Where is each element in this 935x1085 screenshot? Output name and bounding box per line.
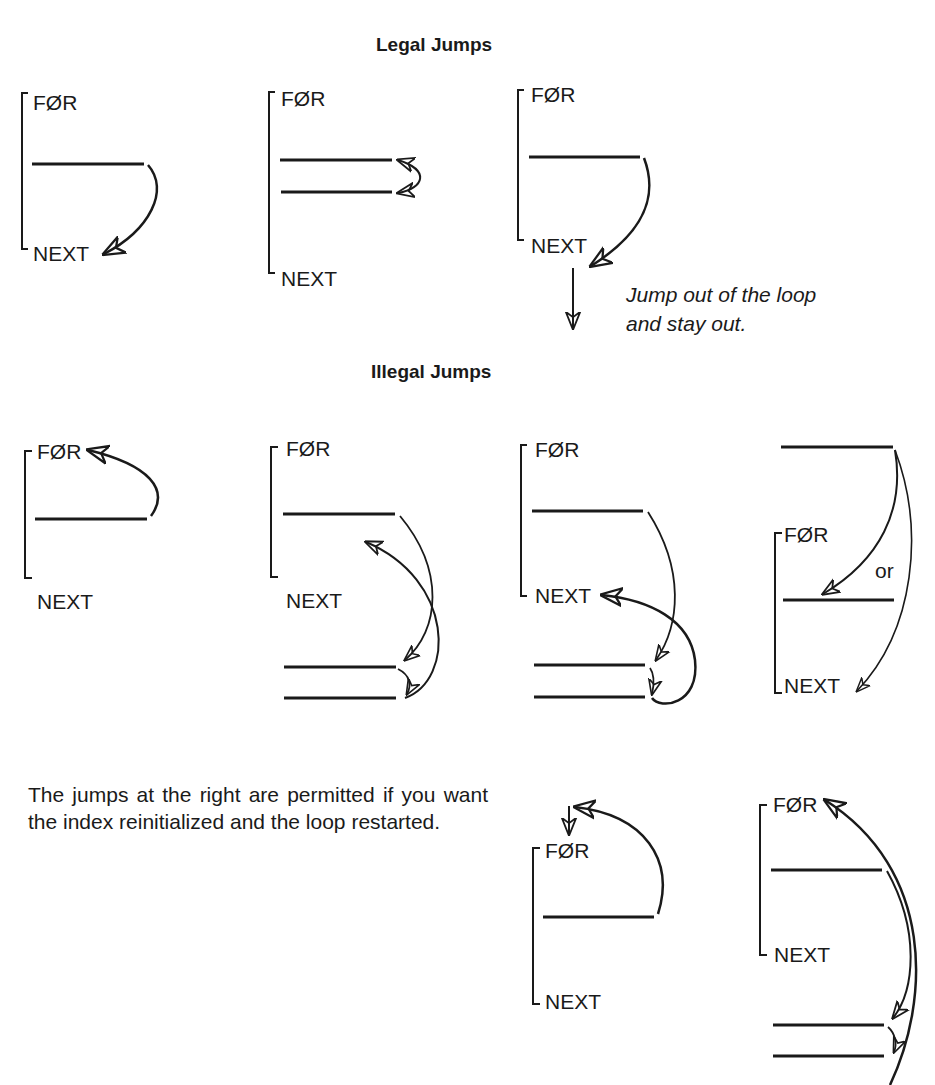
illegal-diagram-3 <box>521 445 695 704</box>
next-label: NEXT <box>33 243 89 264</box>
next-label: NEXT <box>281 268 337 289</box>
restart-explanation: The jumps at the right are permitted if … <box>28 781 488 835</box>
or-label: or <box>875 560 894 581</box>
next-label: NEXT <box>37 591 93 612</box>
next-label: NEXT <box>774 944 830 965</box>
for-label: FØR <box>784 524 828 545</box>
next-label: NEXT <box>784 675 840 696</box>
for-label: FØR <box>33 92 77 113</box>
for-label: FØR <box>545 840 589 861</box>
for-label: FØR <box>281 88 325 109</box>
legal-diagram-1 <box>22 93 157 254</box>
for-label: FØR <box>37 441 81 462</box>
next-label: NEXT <box>286 590 342 611</box>
restart-diagram-1 <box>533 806 663 1004</box>
for-label: FØR <box>773 794 817 815</box>
next-label: NEXT <box>545 991 601 1012</box>
legal-diagram-2 <box>269 92 420 273</box>
jump-out-note-line-2: and stay out. <box>626 309 746 339</box>
next-label: NEXT <box>531 235 587 256</box>
illegal-diagram-2 <box>271 447 439 698</box>
jump-out-note-line-1: Jump out of the loop <box>626 280 816 310</box>
illegal-diagram-1 <box>25 450 158 578</box>
for-label: FØR <box>535 439 579 460</box>
for-label: FØR <box>531 84 575 105</box>
for-label: FØR <box>286 438 330 459</box>
next-label: NEXT <box>535 585 591 606</box>
